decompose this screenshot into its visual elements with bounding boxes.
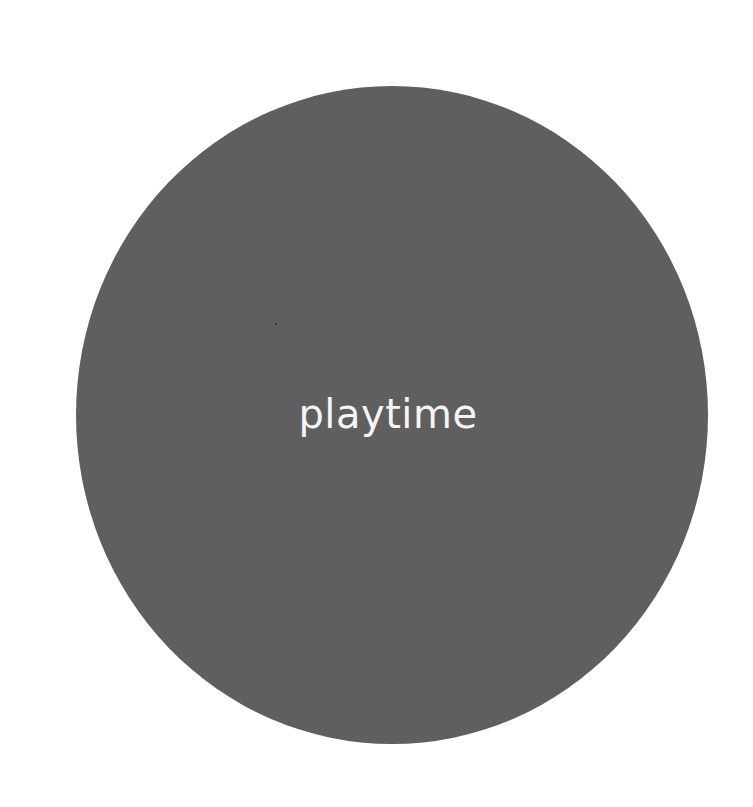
logo-circle: playtime bbox=[76, 86, 708, 744]
artifact-speck bbox=[275, 323, 277, 325]
logo-canvas: playtime bbox=[0, 0, 753, 807]
logo-text: playtime bbox=[76, 389, 708, 439]
